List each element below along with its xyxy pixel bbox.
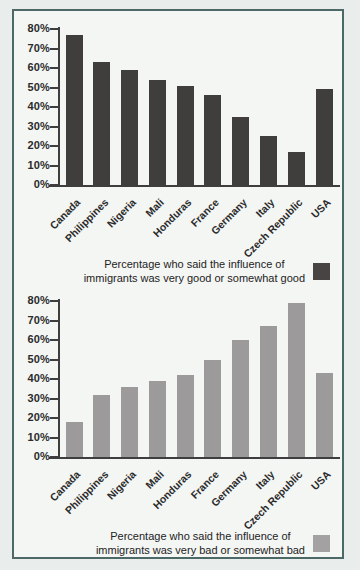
y-axis-tick <box>50 398 58 400</box>
bar-honduras <box>177 86 194 185</box>
y-tick-label: 80% <box>12 22 50 34</box>
y-tick-label: 30% <box>12 120 50 132</box>
category-label: USA <box>308 196 332 220</box>
y-tick-label: 70% <box>12 314 50 326</box>
bar-germany <box>232 340 249 457</box>
bar-canada <box>66 422 83 457</box>
bar-italy <box>260 136 277 185</box>
y-axis-tick <box>50 87 58 89</box>
category-label: Nigeria <box>104 468 138 502</box>
bar-mali <box>149 80 166 185</box>
legend-bad-line1: Percentage who said the influence of <box>110 530 290 542</box>
category-label: USA <box>308 468 332 492</box>
y-axis-line <box>58 299 60 457</box>
y-axis-tick <box>50 417 58 419</box>
y-tick-label: 10% <box>12 431 50 443</box>
y-tick-label: 80% <box>12 294 50 306</box>
plot-area-bad: 0%10%20%30%40%50%60%70%80% <box>58 301 340 457</box>
figure-frame: 0%10%20%30%40%50%60%70%80% CanadaPhilipp… <box>12 9 344 559</box>
legend-swatch-bad <box>313 535 330 552</box>
y-axis-tick <box>50 126 58 128</box>
legend-text-good: Percentage who said the influence of imm… <box>84 257 305 286</box>
y-tick-label: 40% <box>12 100 50 112</box>
y-tick-label: 0% <box>12 178 50 190</box>
y-axis-tick <box>50 48 58 50</box>
y-axis-tick <box>50 184 58 186</box>
y-tick-label: 40% <box>12 372 50 384</box>
category-label: Italy <box>254 196 277 219</box>
y-axis-tick <box>50 456 58 458</box>
bar-nigeria <box>121 387 138 457</box>
legend-bad-line2: immigrants was very bad or somewhat bad <box>96 544 305 556</box>
bar-czech-republic <box>288 152 305 185</box>
bar-usa <box>316 373 333 457</box>
x-axis-labels-good: CanadaPhilippinesNigeriaMaliHondurasFran… <box>58 191 340 253</box>
category-label: Mali <box>143 468 166 491</box>
x-axis-labels-bad: CanadaPhilippinesNigeriaMaliHondurasFran… <box>58 463 340 525</box>
y-tick-label: 60% <box>12 61 50 73</box>
y-axis-tick <box>50 106 58 108</box>
plot-area-good: 0%10%20%30%40%50%60%70%80% <box>58 29 340 185</box>
y-axis-tick <box>50 300 58 302</box>
bar-mali <box>149 381 166 457</box>
y-tick-label: 20% <box>12 411 50 423</box>
legend-good-line2: immigrants was very good or somewhat goo… <box>84 272 305 284</box>
x-axis-line <box>49 185 340 187</box>
y-axis-tick <box>50 378 58 380</box>
bar-philippines <box>93 62 110 185</box>
bar-canada <box>66 35 83 185</box>
category-label: Italy <box>254 468 277 491</box>
y-axis-tick <box>50 359 58 361</box>
bar-czech-republic <box>288 303 305 457</box>
bar-honduras <box>177 375 194 457</box>
bar-germany <box>232 117 249 185</box>
y-axis-tick <box>50 320 58 322</box>
y-axis-tick <box>50 165 58 167</box>
legend-swatch-good <box>313 263 330 280</box>
y-axis-tick <box>50 28 58 30</box>
bar-italy <box>260 326 277 457</box>
y-tick-label: 70% <box>12 42 50 54</box>
bar-usa <box>316 89 333 185</box>
y-tick-label: 10% <box>12 159 50 171</box>
legend-good-line1: Percentage who said the influence of <box>104 258 284 270</box>
bar-philippines <box>93 395 110 457</box>
chart-bad-influence: 0%10%20%30%40%50%60%70%80% CanadaPhilipp… <box>14 291 342 557</box>
y-axis-tick <box>50 145 58 147</box>
bar-france <box>204 360 221 458</box>
y-axis-tick <box>50 437 58 439</box>
y-tick-label: 50% <box>12 81 50 93</box>
legend-text-bad: Percentage who said the influence of imm… <box>96 529 305 558</box>
legend-bad: Percentage who said the influence of imm… <box>14 529 330 558</box>
chart-good-influence: 0%10%20%30%40%50%60%70%80% CanadaPhilipp… <box>14 19 342 269</box>
y-tick-label: 0% <box>12 450 50 462</box>
y-axis-line <box>58 27 60 185</box>
bar-france <box>204 95 221 185</box>
y-tick-label: 60% <box>12 333 50 345</box>
y-tick-label: 30% <box>12 392 50 404</box>
category-label: Mali <box>143 196 166 219</box>
y-axis-tick <box>50 339 58 341</box>
y-axis-tick <box>50 67 58 69</box>
legend-good: Percentage who said the influence of imm… <box>14 257 330 286</box>
bar-nigeria <box>121 70 138 185</box>
y-tick-label: 50% <box>12 353 50 365</box>
x-axis-line <box>49 457 340 459</box>
category-label: Nigeria <box>104 196 138 230</box>
y-tick-label: 20% <box>12 139 50 151</box>
